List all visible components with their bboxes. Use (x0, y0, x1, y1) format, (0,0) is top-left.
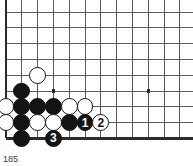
stone-white (29, 114, 46, 131)
stone-black (45, 98, 62, 115)
stone-black (61, 114, 78, 131)
stone-white (29, 67, 46, 84)
stone-white (61, 98, 78, 115)
stone-white (45, 114, 62, 131)
star-point (147, 89, 150, 92)
stone-black (13, 130, 30, 147)
figure-caption: 185 (3, 154, 18, 164)
stone-black-move-3 (45, 130, 62, 147)
go-diagram-figure: 123 185 (0, 0, 193, 166)
star-point (52, 89, 55, 92)
